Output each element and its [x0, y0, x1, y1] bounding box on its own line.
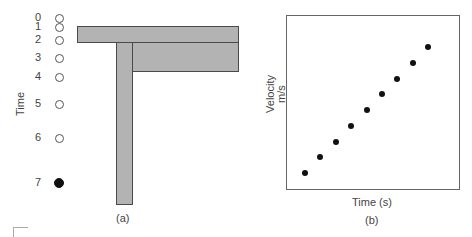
caption-b: (b) — [365, 214, 378, 226]
time-mark-label: 6 — [32, 132, 44, 143]
time-mark-label: 4 — [32, 71, 44, 82]
x-axis-label: Time (s) — [352, 196, 392, 208]
open-circle-icon — [55, 134, 64, 143]
horizontal-bar-right — [132, 42, 239, 72]
filled-circle-icon — [54, 178, 64, 188]
data-point — [364, 107, 370, 113]
open-circle-icon — [55, 100, 64, 109]
time-mark-label: 2 — [32, 34, 44, 45]
time-mark-label: 3 — [32, 52, 44, 63]
data-point — [379, 91, 385, 97]
open-circle-icon — [55, 14, 64, 23]
corner-mark — [13, 227, 28, 237]
open-circle-icon — [55, 36, 64, 45]
vertical-bar — [116, 42, 133, 205]
open-circle-icon — [55, 73, 64, 82]
plot-area — [286, 15, 460, 190]
time-mark-label: 7 — [32, 177, 44, 188]
time-mark-label: 5 — [32, 98, 44, 109]
open-circle-icon — [55, 23, 64, 32]
data-point — [410, 60, 416, 66]
time-axis-label: Time — [14, 88, 26, 120]
data-point — [425, 44, 431, 50]
time-mark-label: 1 — [32, 21, 44, 32]
open-circle-icon — [55, 54, 64, 63]
caption-a: (a) — [116, 212, 129, 224]
data-point — [394, 76, 400, 82]
data-point — [348, 123, 354, 129]
horizontal-bar-top — [77, 26, 239, 43]
data-point — [333, 139, 339, 145]
data-point — [302, 170, 308, 176]
data-point — [317, 154, 323, 160]
